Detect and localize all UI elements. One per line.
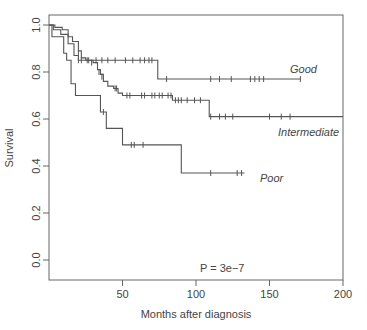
survival-curves xyxy=(49,25,343,176)
p-value-annotation: P = 3e−7 xyxy=(200,262,244,274)
y-tick-label: 0.4 xyxy=(30,158,42,173)
label-intermediate: Intermediate xyxy=(278,126,339,138)
y-tick-label: 0.6 xyxy=(30,111,42,126)
plot-frame xyxy=(49,15,343,280)
x-tick-label: 100 xyxy=(187,288,205,300)
y-axis-label: Survival xyxy=(3,128,15,167)
x-axis-label: Months after diagnosis xyxy=(141,308,252,320)
survival-chart: 0.00.20.40.60.81.0 50100150200 Survival … xyxy=(0,0,367,330)
x-tick-label: 150 xyxy=(260,288,278,300)
x-tick-label: 50 xyxy=(116,288,128,300)
x-tick-label: 200 xyxy=(334,288,352,300)
label-good: Good xyxy=(290,63,318,75)
y-tick-label: 1.0 xyxy=(30,17,42,32)
curve-good xyxy=(49,25,300,79)
x-axis: 50100150200 xyxy=(116,280,352,300)
y-tick-label: 0.0 xyxy=(30,252,42,267)
y-axis: 0.00.20.40.60.81.0 xyxy=(30,17,49,267)
label-poor: Poor xyxy=(260,172,285,184)
y-tick-label: 0.8 xyxy=(30,64,42,79)
y-tick-label: 0.2 xyxy=(30,205,42,220)
